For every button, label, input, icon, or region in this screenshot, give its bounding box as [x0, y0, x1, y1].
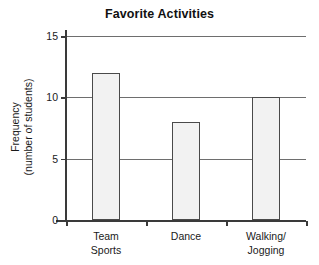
category-separator-tick	[146, 221, 148, 226]
y-axis-label: Frequency (number of students)	[4, 32, 40, 222]
category-label-line: Dance	[171, 230, 201, 244]
plot-area: 051015TeamSportsDanceWalking/Jogging	[66, 36, 306, 220]
x-axis-category-label: Walking/Jogging	[246, 230, 286, 257]
x-axis-category-label: Dance	[171, 230, 201, 244]
x-axis-category-label: TeamSports	[91, 230, 121, 257]
gridline	[66, 36, 306, 37]
y-axis-label-line-2: (number of students)	[22, 79, 35, 176]
category-separator-tick	[66, 221, 68, 226]
y-axis-label-line-1: Frequency	[9, 79, 22, 176]
category-separator-tick	[306, 221, 308, 226]
category-label-line: Walking/	[246, 230, 286, 244]
bar[interactable]	[92, 73, 120, 220]
category-separator-tick	[226, 221, 228, 226]
bar[interactable]	[252, 97, 280, 220]
chart-screen: Favorite Activities Frequency (number of…	[0, 0, 319, 265]
y-tick-mark	[61, 36, 67, 38]
category-label-line: Jogging	[246, 244, 286, 258]
y-tick-label: 5	[52, 153, 58, 165]
y-tick-label: 0	[52, 214, 58, 226]
x-axis-line	[56, 220, 306, 222]
y-tick-mark	[61, 159, 67, 161]
category-label-line: Sports	[91, 244, 121, 258]
category-label-line: Team	[91, 230, 121, 244]
y-axis-line	[65, 30, 67, 222]
y-axis-label-text: Frequency (number of students)	[9, 79, 35, 176]
bar[interactable]	[172, 122, 200, 220]
y-tick-label: 10	[46, 91, 58, 103]
y-tick-label: 15	[46, 30, 58, 42]
y-tick-mark	[61, 97, 67, 99]
chart-title: Favorite Activities	[0, 7, 319, 21]
